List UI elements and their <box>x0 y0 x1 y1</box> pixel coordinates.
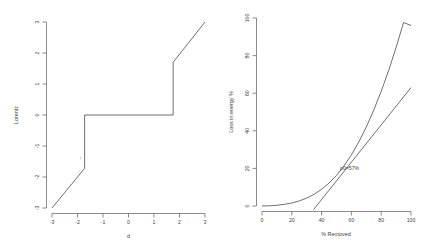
x-tick-label: -3 <box>50 219 55 225</box>
x-tick-label: 0 <box>127 219 130 225</box>
y-tick-label: 3 <box>34 20 40 23</box>
x-tick-label: 60 <box>349 217 355 223</box>
y-tick-label: 1 <box>34 82 40 85</box>
x-tick-labels: -3 -2 -1 0 1 2 3 <box>50 219 207 225</box>
x-tick-label: 20 <box>289 217 295 223</box>
x-tick-label: 80 <box>378 217 384 223</box>
y-tick-label: 80 <box>244 53 250 59</box>
lorentz-step-series <box>52 22 205 208</box>
x-tick-label: -1 <box>101 219 106 225</box>
y-tick-label: 0 <box>34 113 40 116</box>
x-tick-label: 1 <box>153 219 156 225</box>
y-tick-label: -1 <box>34 144 40 149</box>
y-tick-label: 0 <box>244 204 250 207</box>
y-tick-label: 20 <box>244 165 250 171</box>
y-tick-label: 100 <box>244 14 250 23</box>
x-tick-label: 40 <box>319 217 325 223</box>
chart-panel-energy-loss: 100 80 60 40 20 0 0 20 40 60 <box>219 0 437 246</box>
x-axis-label: % Removed <box>321 231 350 237</box>
x-tick-marks <box>52 214 205 218</box>
y-axis-label: Lorentz <box>13 106 19 124</box>
x-tick-label: 100 <box>407 217 416 223</box>
loss-curve-series <box>262 23 411 206</box>
y-tick-marks <box>253 18 257 206</box>
y-tick-label: -2 <box>34 175 40 180</box>
x-tick-label: -2 <box>75 219 80 225</box>
lorentz-chart-svg: 3 2 1 0 -1 -2 -3 -3 -2 <box>0 0 219 246</box>
x-tick-label: 3 <box>204 219 207 225</box>
figure-panel-pair: 3 2 1 0 -1 -2 -3 -3 -2 <box>0 0 437 246</box>
y-tick-label: -3 <box>34 206 40 211</box>
energy-loss-chart-svg: 100 80 60 40 20 0 0 20 40 60 <box>219 0 437 246</box>
y-tick-labels: 3 2 1 0 -1 -2 -3 <box>34 20 40 210</box>
x-axis-label: d <box>127 233 130 239</box>
tangent-line-series <box>313 88 411 210</box>
chart-panel-lorentz: 3 2 1 0 -1 -2 -3 -3 -2 <box>0 0 219 246</box>
x-tick-label: 2 <box>178 219 181 225</box>
x-tick-marks <box>262 212 411 216</box>
y-tick-label: 40 <box>244 128 250 134</box>
y-tick-labels: 100 80 60 40 20 0 <box>244 14 250 208</box>
y-tick-label: 2 <box>34 51 40 54</box>
x-tick-labels: 0 20 40 60 80 100 <box>261 217 416 223</box>
scan-speck <box>80 157 81 158</box>
y-axis-label: Loss in energy % <box>228 91 234 133</box>
y-tick-marks <box>43 22 47 208</box>
p0-annotation-label: p0=57% <box>340 165 360 171</box>
y-tick-label: 60 <box>244 90 250 96</box>
x-tick-label: 0 <box>261 217 264 223</box>
